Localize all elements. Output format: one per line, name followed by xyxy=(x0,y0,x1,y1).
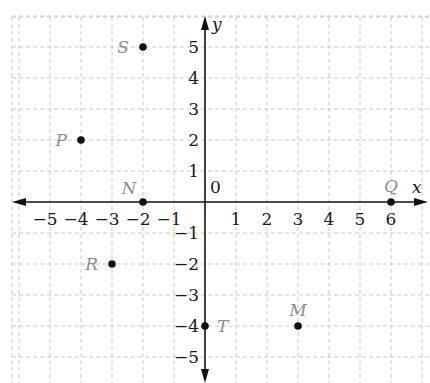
x-tick-label: 1 xyxy=(231,209,242,229)
y-tick-label: −4 xyxy=(174,316,199,336)
y-tick-label: 1 xyxy=(188,161,199,181)
point-dot-icon xyxy=(387,198,395,206)
x-axis-label: x xyxy=(412,177,422,197)
y-tick-label: −2 xyxy=(174,254,199,274)
origin-label: 0 xyxy=(210,177,221,197)
y-tick-label: 5 xyxy=(188,37,199,57)
point-label: R xyxy=(84,254,98,274)
y-axis-arrow-up-icon xyxy=(201,16,209,30)
x-tick-label: −3 xyxy=(94,209,119,229)
y-axis-label: y xyxy=(211,14,222,34)
x-tick-label: 3 xyxy=(293,209,304,229)
x-tick-label: 6 xyxy=(386,209,397,229)
y-tick-label: −1 xyxy=(174,223,199,243)
y-tick-label: −3 xyxy=(174,285,199,305)
y-tick-label: 4 xyxy=(188,68,199,88)
x-tick-label: −4 xyxy=(63,209,88,229)
point-dot-icon xyxy=(201,322,209,330)
point-label: Q xyxy=(384,176,398,196)
point-dot-icon xyxy=(77,136,85,144)
point-label: N xyxy=(121,178,138,198)
y-tick-label: 3 xyxy=(188,99,199,119)
point-dot-icon xyxy=(139,43,147,51)
point-m: M xyxy=(288,300,307,330)
x-tick-label: −5 xyxy=(32,209,57,229)
coordinate-plane: x y 0 −5−4−3−2−112345654321−1−2−3−4−5 SP… xyxy=(0,0,430,383)
y-tick-label: −5 xyxy=(174,347,199,367)
x-axis-arrow-right-icon xyxy=(414,198,428,206)
point-label: S xyxy=(117,37,129,57)
point-label: M xyxy=(288,300,307,320)
y-tick-label: 2 xyxy=(188,130,199,150)
x-tick-label: 5 xyxy=(355,209,366,229)
point-label: P xyxy=(55,130,68,150)
plotted-points: SPNQRTM xyxy=(55,37,398,336)
x-tick-label: −2 xyxy=(125,209,150,229)
point-dot-icon xyxy=(294,322,302,330)
point-dot-icon xyxy=(108,260,116,268)
point-label: T xyxy=(217,316,230,336)
point-dot-icon xyxy=(139,198,147,206)
x-tick-label: 4 xyxy=(324,209,335,229)
x-tick-label: 2 xyxy=(262,209,273,229)
y-axis-arrow-down-icon xyxy=(201,369,209,383)
